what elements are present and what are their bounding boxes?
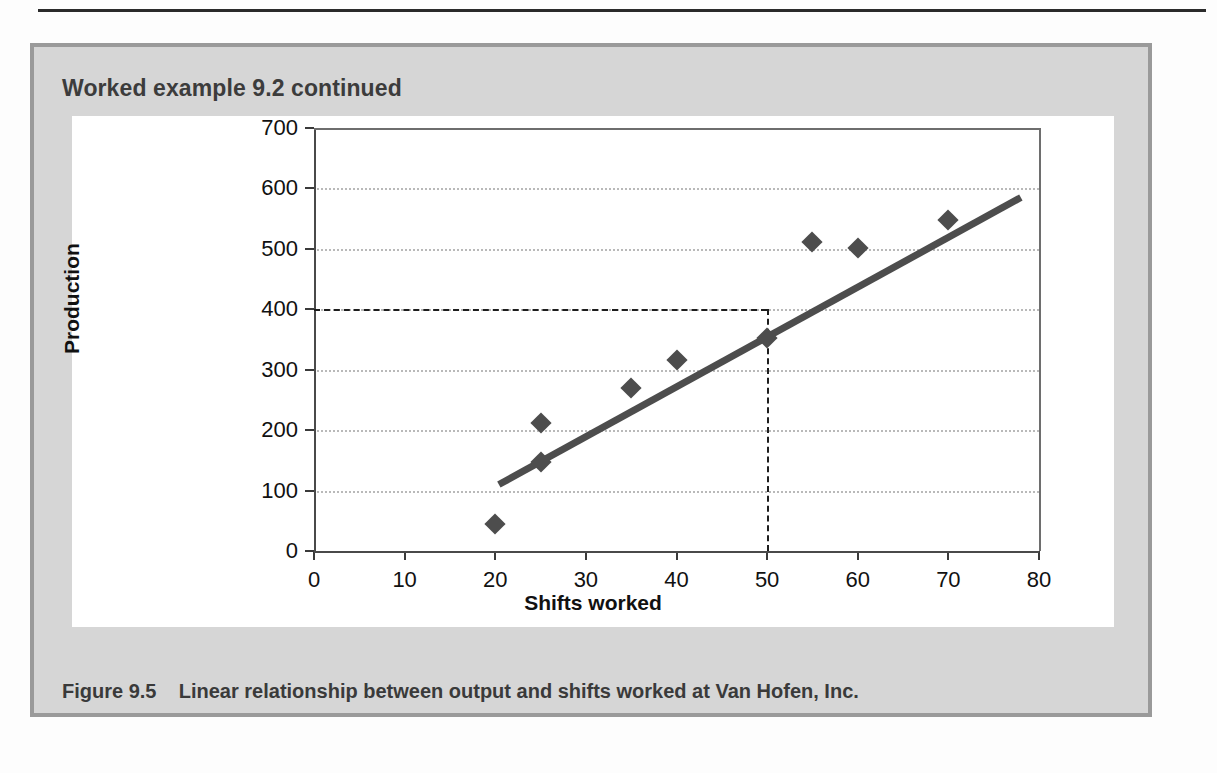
x-axis-line [314, 551, 1039, 553]
reference-horizontal [314, 309, 767, 311]
y-tick-label-100: 100 [236, 478, 298, 504]
y-tick-mark-600 [305, 187, 314, 189]
data-point-marker [847, 237, 868, 258]
gridline-y-200 [314, 430, 1039, 432]
x-tick-label-10: 10 [392, 567, 416, 593]
chart-plot: Production Shifts worked 010020030040050… [72, 116, 1114, 627]
y-tick-mark-200 [305, 429, 314, 431]
y-tick-mark-100 [305, 490, 314, 492]
y-tick-label-600: 600 [236, 175, 298, 201]
x-tick-label-0: 0 [308, 567, 320, 593]
y-axis-line [314, 128, 316, 551]
gridline-y-600 [314, 188, 1039, 190]
x-tick-label-30: 30 [574, 567, 598, 593]
x-tick-label-20: 20 [483, 567, 507, 593]
plot-frame-right [1039, 128, 1041, 551]
chart-card: Production Shifts worked 010020030040050… [72, 116, 1114, 627]
y-axis-label: Production [60, 243, 84, 354]
figure-caption-label: Figure 9.5 [62, 680, 156, 702]
x-tick-label-70: 70 [936, 567, 960, 593]
worked-example-box: Worked example 9.2 continued Production … [30, 43, 1152, 717]
gridline-y-100 [314, 491, 1039, 493]
y-tick-label-300: 300 [236, 357, 298, 383]
plot-frame-top [314, 128, 1039, 130]
x-axis-label: Shifts worked [72, 591, 1114, 615]
data-point-marker [757, 327, 778, 348]
page-root: Worked example 9.2 continued Production … [0, 0, 1217, 773]
y-tick-mark-300 [305, 369, 314, 371]
y-tick-label-400: 400 [236, 296, 298, 322]
data-point-marker [621, 377, 642, 398]
top-horizontal-rule [38, 9, 1206, 12]
data-point-marker [938, 209, 959, 230]
y-tick-mark-400 [305, 308, 314, 310]
figure-caption: Figure 9.5 Linear relationship between o… [62, 680, 859, 703]
x-tick-label-40: 40 [664, 567, 688, 593]
x-tick-label-80: 80 [1027, 567, 1051, 593]
data-point-marker [530, 451, 551, 472]
x-tick-label-60: 60 [846, 567, 870, 593]
data-point-marker [666, 349, 687, 370]
y-tick-label-500: 500 [236, 236, 298, 262]
y-tick-mark-700 [305, 127, 314, 129]
y-tick-label-700: 700 [236, 115, 298, 141]
gridline-y-500 [314, 249, 1039, 251]
data-point-marker [485, 513, 506, 534]
x-tick-label-50: 50 [755, 567, 779, 593]
box-title: Worked example 9.2 continued [62, 75, 402, 102]
y-tick-label-0: 0 [236, 538, 298, 564]
y-tick-mark-500 [305, 248, 314, 250]
y-tick-label-200: 200 [236, 417, 298, 443]
figure-caption-text: Linear relationship between output and s… [179, 680, 859, 702]
